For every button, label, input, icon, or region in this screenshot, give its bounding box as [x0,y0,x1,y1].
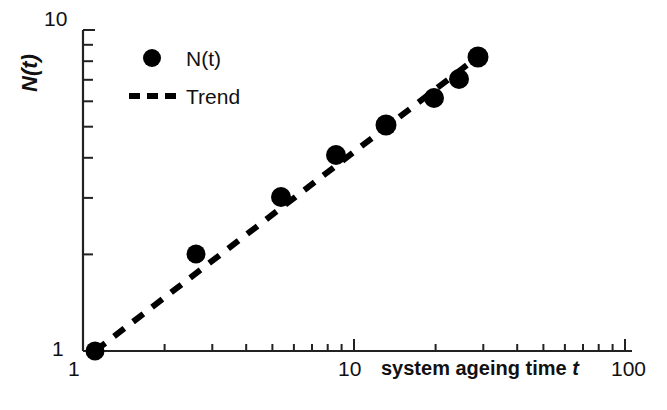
data-point [326,145,346,165]
data-points [86,47,489,361]
y-axis-ticks [83,30,95,351]
y-axis-tick-label-bottom: 1 [52,338,64,359]
legend-label-series: N(t) [186,48,221,69]
x-axis-tick-label-100: 100 [611,358,646,379]
chart-figure: N(t) 10 1 1 10 100 system ageing time t … [0,0,667,410]
y-axis-tick-label-top: 10 [44,8,67,29]
x-axis-ticks [83,339,625,351]
data-point [424,88,444,108]
legend-marker-series [143,49,161,67]
chart-plot-area [0,0,667,410]
data-point [86,342,105,361]
y-axis-title: N(t) [17,37,43,109]
data-point [187,245,206,264]
x-axis-title-main: system ageing time [381,357,567,379]
x-axis-title: system ageing time t [381,357,579,380]
x-axis-tick-label-10: 10 [338,358,361,379]
x-axis-title-variable: t [572,357,579,379]
data-point [468,47,489,68]
legend-label-trend: Trend [186,86,240,107]
data-point [449,69,469,89]
data-point [271,187,291,207]
data-point [376,115,397,136]
x-axis-tick-label-1: 1 [68,358,80,379]
